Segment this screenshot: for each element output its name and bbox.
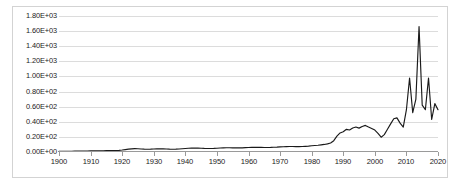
x-axis-tick-label: 1910 (83, 157, 100, 166)
x-axis-tick-label: 1990 (335, 157, 352, 166)
x-axis-tick (343, 152, 344, 156)
x-axis-tick (312, 152, 313, 156)
x-axis-tick (249, 152, 250, 156)
y-axis-tick-label: 0.20E+02 (11, 133, 57, 141)
plot-area (59, 16, 438, 152)
y-axis-tick-label: 1.20E+03 (11, 57, 57, 65)
x-axis-tick-label: 1980 (304, 157, 321, 166)
x-axis-tick (154, 152, 155, 156)
chart-frame: 1.80E+031.60E+031.40E+031.20E+031.00E+03… (12, 6, 448, 178)
x-axis-tick (217, 152, 218, 156)
x-axis: 1900191019201930194019501960197019801990… (59, 152, 438, 174)
x-axis-tick-label: 1940 (177, 157, 194, 166)
x-axis-tick (91, 152, 92, 156)
y-axis-tick-label: 0.00E+00 (11, 148, 57, 156)
x-axis-tick-label: 2010 (398, 157, 415, 166)
x-axis-tick-label: 1900 (51, 157, 68, 166)
x-axis-tick-label: 2000 (367, 157, 384, 166)
x-axis-tick (59, 152, 60, 156)
x-axis-tick-label: 1970 (272, 157, 289, 166)
x-axis-tick (375, 152, 376, 156)
x-axis-tick-label: 2020 (430, 157, 447, 166)
x-axis-tick (438, 152, 439, 156)
x-axis-tick-label: 1920 (114, 157, 131, 166)
y-axis-tick-label: 1.00E+03 (11, 72, 57, 80)
x-axis-tick (185, 152, 186, 156)
line-series (59, 16, 438, 152)
y-axis-tick-label: 0.60E+02 (11, 103, 57, 111)
x-axis-tick (280, 152, 281, 156)
y-axis-tick-label: 0.80E+02 (11, 88, 57, 96)
x-axis-tick (122, 152, 123, 156)
y-axis-tick-label: 1.60E+03 (11, 27, 57, 35)
y-axis-tick-label: 0.40E+02 (11, 118, 57, 126)
y-axis: 1.80E+031.60E+031.40E+031.20E+031.00E+03… (13, 16, 57, 152)
x-axis-tick-label: 1950 (209, 157, 226, 166)
series-polyline (59, 27, 438, 152)
x-axis-tick (406, 152, 407, 156)
x-axis-tick-label: 1930 (146, 157, 163, 166)
y-axis-tick-label: 1.80E+03 (11, 12, 57, 20)
x-axis-tick-label: 1960 (241, 157, 258, 166)
y-axis-tick-label: 1.40E+03 (11, 42, 57, 50)
